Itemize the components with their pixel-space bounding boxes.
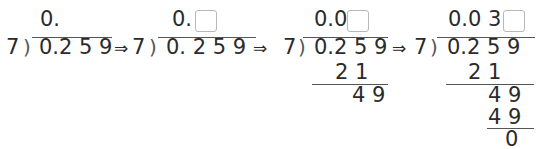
step-4-divisor: 7 (414, 37, 427, 58)
division-bracket-icon: ) (298, 37, 306, 57)
step-2-quotient: 0. (172, 9, 192, 30)
answer-box[interactable] (347, 10, 369, 32)
answer-box[interactable] (195, 10, 217, 32)
step-1-quotient: 0. (40, 9, 60, 30)
arrow-3-icon: ⇒ (392, 40, 406, 57)
division-bracket-icon: ) (430, 37, 438, 57)
step-1-dividend: 0.2 5 9 (39, 37, 112, 58)
arrow-2-icon: ⇒ (253, 40, 267, 57)
step-4-final-remainder: 0 (505, 129, 518, 149)
answer-box[interactable] (503, 10, 525, 32)
long-division-illustration: 0. 7 ) 0.2 5 9 ⇒ 0. 7 ) 0. 2 5 9 ⇒ 0.0 7… (0, 0, 538, 149)
division-bracket-icon: ) (149, 37, 157, 57)
step-3-divisor: 7 (283, 37, 296, 58)
step-2-dividend: 0. 2 5 9 (166, 37, 246, 58)
step-1-divisor: 7 (6, 37, 19, 58)
step-3-remainder: 4 9 (352, 85, 385, 106)
step-4-dividend: 0.2 5 9 (447, 37, 520, 58)
step-2-divisor: 7 (132, 37, 145, 58)
step-4-remainder-1: 4 9 (488, 85, 521, 106)
arrow-1-icon: ⇒ (114, 40, 128, 57)
step-3-dividend: 0.2 5 9 (314, 37, 387, 58)
division-bracket-icon: ) (23, 37, 31, 57)
step-4-quotient: 0.0 3 (448, 9, 501, 30)
step-4-product-1: 2 1 (468, 62, 501, 83)
step-3-product: 2 1 (335, 62, 368, 83)
step-3-quotient: 0.0 (314, 9, 347, 30)
step-4-product-2: 4 9 (488, 107, 521, 128)
